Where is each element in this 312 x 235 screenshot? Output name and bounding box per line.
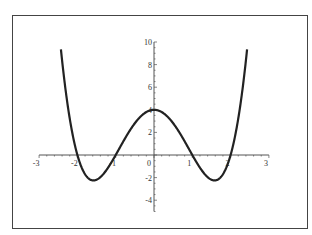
- tick-label: 1: [187, 159, 191, 168]
- tick-label: -2: [145, 174, 152, 183]
- tick-label: -4: [145, 196, 152, 205]
- tick-label: 8: [148, 61, 152, 70]
- tick-label: 6: [148, 83, 152, 92]
- tick-labels: -3-2-10123-4-2246810: [33, 38, 268, 205]
- tick-label: 2: [148, 128, 152, 137]
- tick-label: 10: [144, 38, 152, 47]
- function-plot: -3-2-10123-4-2246810: [0, 0, 312, 235]
- tick-label: -2: [71, 159, 78, 168]
- tick-label: -3: [33, 159, 40, 168]
- tick-label: 0: [147, 159, 151, 168]
- tick-label: 3: [264, 159, 268, 168]
- axes: [39, 42, 269, 212]
